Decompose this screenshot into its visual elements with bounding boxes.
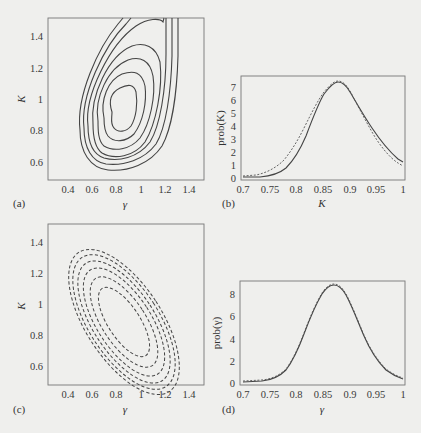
svg-text:0: 0 [230,378,235,389]
svg-text:1.2: 1.2 [158,184,171,195]
y-axis-label-c: K [15,302,27,311]
panel-label-d: (d) [222,403,235,416]
svg-text:1.4: 1.4 [30,237,44,248]
svg-text:1: 1 [38,299,43,310]
x-axis-label-d: γ [320,403,325,415]
x-axis-label-c: γ [123,403,128,415]
svg-text:5: 5 [231,108,236,119]
svg-text:0.4: 0.4 [61,389,75,400]
svg-text:1.4: 1.4 [182,184,196,195]
svg-text:6: 6 [230,311,235,322]
svg-text:1: 1 [138,389,143,400]
x-ticks-b: 0.7 0.75 0.8 0.85 0.9 0.95 1 [236,184,405,195]
x-ticks-c: 0.4 0.6 0.8 1 1.2 1.4 [61,389,196,400]
y-ticks-d: 0 2 4 6 8 [230,289,236,389]
y-axis-label-a: K [15,95,27,104]
svg-text:6: 6 [231,95,236,106]
svg-text:1.2: 1.2 [30,268,43,279]
svg-text:0: 0 [231,173,236,184]
contours-a [80,18,178,170]
svg-text:0.9: 0.9 [343,389,356,400]
panel-d: 0 2 4 6 8 0.7 0.75 0.8 0.85 0.9 0.95 1 γ… [210,281,406,416]
svg-text:0.8: 0.8 [289,389,302,400]
svg-text:0.95: 0.95 [367,389,385,400]
panel-c: 1.4 1.2 1 0.8 0.6 0.4 0.6 0.8 1 1.2 1.4 … [13,224,204,416]
svg-text:0.6: 0.6 [30,157,43,168]
x-axis-label-b: K [317,197,326,209]
svg-text:3: 3 [231,134,236,145]
svg-text:0.6: 0.6 [85,389,98,400]
y-ticks-a: 1.4 1.2 1 0.8 0.6 [30,31,44,168]
svg-text:4: 4 [230,334,236,345]
x-ticks-d: 0.7 0.75 0.8 0.85 0.9 0.95 1 [236,389,405,400]
svg-text:0.85: 0.85 [314,389,332,400]
svg-text:4: 4 [231,121,237,132]
panel-b: 0 1 2 3 4 5 6 7 0.7 0.75 0.8 0.85 0.9 0.… [214,76,406,210]
svg-text:0.75: 0.75 [261,184,279,195]
svg-text:0.9: 0.9 [343,184,356,195]
x-axis-label-a: γ [123,198,128,210]
svg-text:0.6: 0.6 [30,361,43,372]
svg-text:0.4: 0.4 [61,184,75,195]
curves-b [243,81,403,177]
plot-frame-c [48,224,204,385]
svg-text:0.7: 0.7 [236,389,249,400]
svg-text:1.2: 1.2 [30,63,43,74]
panel-a: 1.4 1.2 1 0.8 0.6 0.4 0.6 0.8 1 1.2 1.4 … [13,18,204,210]
x-ticks-a: 0.4 0.6 0.8 1 1.2 1.4 [61,184,196,195]
svg-text:0.8: 0.8 [30,330,43,341]
svg-text:0.8: 0.8 [30,125,43,136]
svg-text:2: 2 [231,147,236,158]
svg-text:0.95: 0.95 [367,184,385,195]
svg-text:0.75: 0.75 [261,389,279,400]
curves-d [243,284,403,382]
svg-text:1.4: 1.4 [182,389,196,400]
svg-text:1: 1 [38,94,43,105]
svg-text:1: 1 [400,184,405,195]
svg-text:1: 1 [138,184,143,195]
y-axis-label-d: prob(γ) [210,316,223,349]
svg-text:0.6: 0.6 [85,184,98,195]
svg-text:7: 7 [231,82,236,93]
svg-text:0.8: 0.8 [109,389,122,400]
y-ticks-b: 0 1 2 3 4 5 6 7 [231,82,237,184]
plot-frame-d [240,281,405,385]
svg-text:1.4: 1.4 [30,31,44,42]
svg-text:1: 1 [400,389,405,400]
y-axis-label-b: prob(K) [214,110,227,146]
panel-label-c: (c) [13,403,26,416]
figure: 1.4 1.2 1 0.8 0.6 0.4 0.6 0.8 1 1.2 1.4 … [0,0,421,433]
y-ticks-c: 1.4 1.2 1 0.8 0.6 [30,237,44,372]
svg-text:0.8: 0.8 [109,184,122,195]
svg-text:0.7: 0.7 [236,184,249,195]
svg-text:1.2: 1.2 [158,389,171,400]
svg-text:8: 8 [230,289,235,300]
panel-label-a: (a) [13,197,26,210]
svg-text:0.8: 0.8 [289,184,302,195]
panel-label-b: (b) [222,197,235,210]
svg-text:1: 1 [231,160,236,171]
svg-text:0.85: 0.85 [314,184,332,195]
svg-text:2: 2 [230,356,235,367]
plot-frame-b [241,76,405,180]
